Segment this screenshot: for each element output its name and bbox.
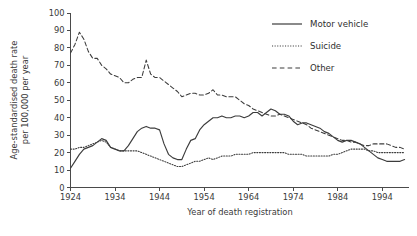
- y-axis-ticks: 0102030405060708090100: [49, 8, 71, 193]
- chart-legend: Motor vehicleSuicideOther: [272, 19, 368, 73]
- x-tick-label: 1944: [149, 192, 170, 202]
- x-tick-label: 1954: [194, 192, 215, 202]
- x-tick-label: 1974: [283, 192, 304, 202]
- x-axis-ticks: 19241934194419541964197419841994: [60, 188, 393, 203]
- y-tick-label: 60: [54, 78, 65, 88]
- series-group: [71, 32, 405, 168]
- y-axis-title: Age-standardised death rate per 100,000 …: [9, 41, 30, 160]
- x-tick-label: 1964: [238, 192, 259, 202]
- series-line-other: [71, 32, 405, 149]
- y-tick-label: 70: [54, 60, 65, 70]
- y-tick-label: 50: [54, 95, 65, 105]
- chart-figure: Age-standardised death rate per 100,000 …: [0, 0, 417, 236]
- series-line-motor: [71, 109, 405, 168]
- line-chart: Age-standardised death rate per 100,000 …: [0, 0, 417, 236]
- y-tick-label: 0: [59, 183, 64, 193]
- series-line-suicide: [71, 140, 405, 166]
- legend-label: Suicide: [310, 41, 341, 51]
- y-axis-title-line2: per 100,000 per year: [20, 55, 30, 144]
- legend-label: Motor vehicle: [310, 19, 368, 29]
- y-tick-label: 20: [54, 148, 65, 158]
- x-axis-title: Year of death registration: [186, 207, 292, 217]
- y-tick-label: 90: [54, 25, 65, 35]
- y-axis-title-line1: Age-standardised death rate: [9, 41, 19, 160]
- x-tick-label: 1994: [372, 192, 393, 202]
- x-tick-label: 1984: [327, 192, 348, 202]
- y-tick-label: 100: [49, 8, 65, 18]
- x-tick-label: 1924: [60, 192, 81, 202]
- y-tick-label: 10: [54, 165, 65, 175]
- y-tick-label: 80: [54, 43, 65, 53]
- y-tick-label: 30: [54, 130, 65, 140]
- y-tick-label: 40: [54, 113, 65, 123]
- legend-label: Other: [310, 63, 335, 73]
- x-tick-label: 1934: [104, 192, 125, 202]
